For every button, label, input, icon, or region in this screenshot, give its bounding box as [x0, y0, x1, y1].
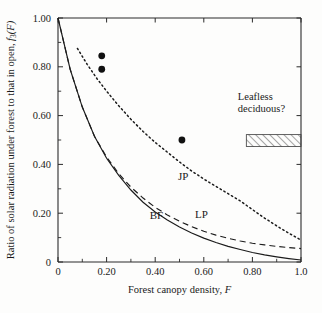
curve-label-bf: BF — [150, 209, 163, 221]
y-tick-label: 1.00 — [33, 13, 51, 24]
leafless-deciduous-label: deciduous? — [238, 103, 286, 114]
curve-label-lp: LP — [195, 208, 208, 220]
y-tick-label: 0.20 — [33, 208, 51, 219]
leafless-deciduous-band — [246, 135, 301, 147]
x-tick-label: 0 — [55, 266, 60, 277]
x-tick-label: 0.40 — [146, 266, 164, 277]
y-tick-label: 0.60 — [33, 110, 51, 121]
data-point — [98, 66, 105, 73]
x-tick-label: 1.0 — [294, 266, 307, 277]
data-point — [98, 52, 105, 59]
x-tick-label: 0.80 — [243, 266, 261, 277]
figure-container: 00.200.400.600.801.000.200.400.600.801.0… — [0, 0, 322, 313]
y-tick-label: 0.80 — [33, 61, 51, 72]
x-axis-title: Forest canopy density, F — [128, 284, 232, 295]
curve-label-jp: JP — [178, 170, 188, 182]
leafless-deciduous-label: Leafless — [238, 91, 273, 102]
x-tick-label: 0.60 — [195, 266, 213, 277]
solar-radiation-chart: 00.200.400.600.801.000.200.400.600.801.0… — [0, 0, 322, 313]
x-tick-label: 0.20 — [97, 266, 115, 277]
y-tick-label: 0 — [46, 257, 51, 268]
y-tick-label: 0.40 — [33, 159, 51, 170]
data-point — [179, 137, 186, 144]
